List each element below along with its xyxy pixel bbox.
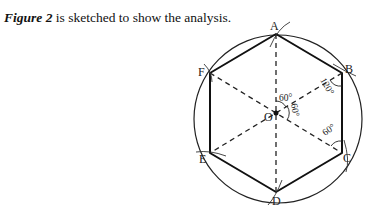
vertex-label-b: B: [345, 62, 353, 76]
angle-label-b: 120°: [318, 76, 336, 97]
angle-label-center-top: 60°: [279, 93, 293, 103]
angle-label-c: 60°: [320, 122, 337, 138]
center-point: [274, 111, 279, 116]
hexagon-diagram: A B C D E F O 60° 60° 120° 60°: [0, 0, 377, 219]
vertex-label-a: A: [270, 19, 279, 33]
vertex-label-e: E: [199, 152, 206, 166]
center-label-o: O: [264, 110, 273, 124]
angle-label-center-right: 60°: [289, 103, 301, 118]
circumscribed-circle: [194, 35, 362, 203]
vertex-label-c: C: [343, 151, 351, 165]
vertex-label-d: D: [272, 194, 281, 208]
vertex-label-f: F: [198, 65, 205, 79]
